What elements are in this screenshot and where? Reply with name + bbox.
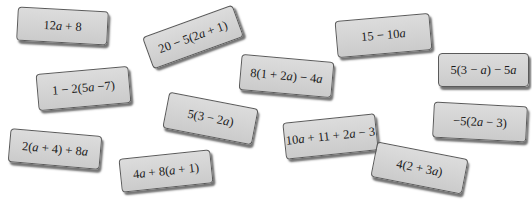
expression-card[interactable]: 15 − 10a [335,13,433,58]
expression-label: 20 − 5(2a + 1) [156,18,229,57]
expression-card[interactable]: 10a + 11 + 2a − 3 [282,113,378,160]
expression-label: 4(2 + 3a) [395,156,444,180]
expression-label: 10a + 11 + 2a − 3 [285,124,376,148]
expression-label: 1 − 2(5a −7) [51,78,115,98]
expression-label: −5(2a − 3) [453,113,507,131]
expression-label: 5(3 − a) − 5a [450,63,516,78]
expression-card[interactable]: −5(2a − 3) [432,102,528,143]
expression-card[interactable]: 20 − 5(2a + 1) [142,5,244,70]
expression-card[interactable]: 4(2 + 3a) [370,141,468,194]
expression-card[interactable]: 12a + 8 [16,7,109,46]
expression-card[interactable]: 1 − 2(5a −7) [36,66,132,111]
expression-label: 5(3 − 2a) [186,107,235,131]
expression-card[interactable]: 8(1 + 2a) − 4a [239,54,335,98]
expression-card[interactable]: 2(a + 4) + 8a [8,128,103,170]
expression-label: 12a + 8 [43,18,82,35]
expression-card[interactable]: 4a + 8(a + 1) [118,149,213,192]
expression-label: 15 − 10a [361,26,407,45]
expression-label: 4a + 8(a + 1) [132,160,199,182]
expression-card[interactable]: 5(3 − a) − 5a [438,53,529,87]
expression-label: 2(a + 4) + 8a [21,139,88,160]
expression-label: 8(1 + 2a) − 4a [250,65,324,86]
expression-card[interactable]: 5(3 − 2a) [162,92,258,146]
